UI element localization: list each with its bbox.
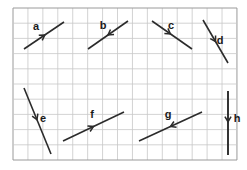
- vector-label-c: c: [168, 19, 174, 31]
- grid-layer: [13, 8, 237, 160]
- vector-label-g: g: [165, 108, 172, 120]
- vector-h: h: [225, 91, 241, 155]
- vector-label-a: a: [33, 20, 40, 32]
- vector-label-e: e: [40, 112, 46, 124]
- vector-diagram: abcdefgh: [0, 0, 247, 170]
- vector-label-f: f: [90, 108, 94, 120]
- vector-label-d: d: [217, 34, 224, 46]
- vector-label-h: h: [234, 112, 241, 124]
- figure-canvas: abcdefgh: [0, 0, 247, 170]
- vector-label-b: b: [100, 19, 107, 31]
- vector-f: f: [63, 108, 124, 141]
